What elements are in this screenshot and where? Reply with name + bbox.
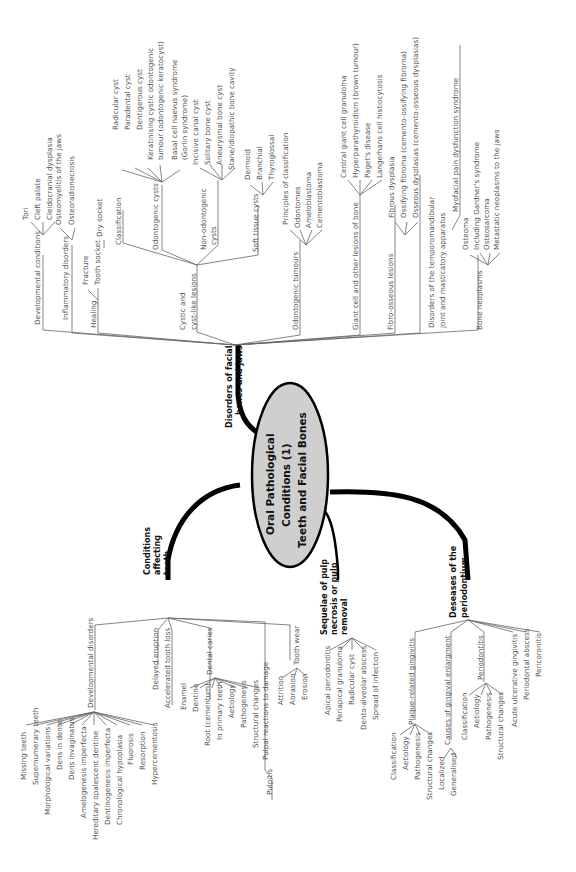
cystic-classification: Classification (114, 197, 123, 245)
branch-pulp-sequelae: Sequelae of pulp necrosis or pulp remova… (320, 559, 380, 730)
odontogenic-cysts: Odontogenic cysts (151, 183, 160, 250)
paradental-cyst: Paradental cyst (123, 74, 132, 130)
cystic-label-1: Cystic and (178, 292, 187, 330)
resorption: Resorption (138, 731, 147, 770)
pulpal-reactions: Pulpal reactions to damage (261, 661, 270, 760)
center-title-line1: Oral Pathological (264, 434, 276, 536)
odontomes: Odontomes (293, 186, 302, 228)
spread-of-infection: Spread of infection (371, 652, 380, 720)
dental-caries: Dental caries (205, 627, 214, 675)
keratinising-cystic-2: tumour (odontogenic keratocyst) (156, 41, 165, 160)
osteosarcoma: Osteosarcoma (482, 198, 491, 250)
hereditary-opalescent-dentine: Hereditary opalescent dentine (91, 730, 100, 840)
morphological-variations: Morphological variations (43, 727, 52, 815)
pulp-label-1: Sequelae of pulp (320, 559, 329, 635)
fibrous-dysplasia: Fibrous dysplasia (387, 156, 396, 218)
branch-teeth: Conditions affecting teeth Developmental… (19, 527, 309, 840)
metastatic-neoplasms: Metastatic neoplasms to the jaws (492, 129, 501, 250)
accelerated-tooth-loss: Accelerated tooth loss (163, 628, 172, 708)
caries-structural-changes: Structural changes (251, 680, 260, 748)
gardners-syndrome: Including Gardner's syndrome (472, 141, 481, 250)
non-odontogenic-2: cysts (209, 226, 218, 245)
dens-in-dente: Dens in dente (55, 719, 64, 770)
plaque-gingivitis: Plaque-related gingivitis (407, 638, 416, 725)
basal-cell-naevus-1: Basal cell naevus syndrome (170, 59, 179, 160)
perio-structural-changes: Structural changes (496, 692, 505, 760)
supernumerary-teeth: Supernumerary teeth (31, 708, 40, 785)
fracture: Fracture (81, 255, 90, 285)
caries-primary-teeth: In primary teeth (215, 682, 224, 740)
perio-classification: Classification (460, 692, 469, 740)
principles-classification: Principles of classification (281, 133, 290, 225)
plaque-pathogenesis: Pathogenesis (413, 732, 422, 780)
solitary-bone-cyst: Solitary bone cyst (203, 100, 212, 165)
plaque-aetiology: Aetiology (401, 736, 410, 770)
cystic-label-2: cyst-like lesions (189, 273, 198, 330)
dermoid: Dermoid (243, 149, 252, 180)
tmj-label-2: joint and masticatory apparatus (438, 212, 447, 329)
cleft-palate: Cleft palate (33, 178, 42, 220)
odontogenic-tumours: Odontogenic tumours (291, 252, 300, 330)
soft-tissue-cysts: Soft tissue cysts (251, 193, 260, 252)
giant-cell-lesions: Giant cell and other lesions of bone (351, 202, 360, 330)
generalised: Generalised (449, 753, 458, 796)
osteomyelitis: Osteomyelitis of the jaws (54, 134, 63, 225)
fluorosis: Fluorosis (126, 733, 135, 765)
delayed-eruption: Delayed eruption (151, 628, 160, 690)
pulpitis: Pulpitis (265, 769, 274, 795)
amelogenesis-imperfecta: Amelogenesis imperfecta (79, 726, 88, 818)
abrasion: Abrasion (288, 673, 297, 705)
center-title-line3: Teeth and Facial Bones (296, 412, 308, 548)
teeth-label-2: affecting (153, 535, 162, 575)
mind-map: Oral Pathological Conditions (1) Teeth a… (0, 0, 576, 872)
cementoblastoma: Cementoblastoma (315, 162, 324, 228)
tooth-socket: Tooth socket (93, 240, 102, 286)
chronological-hypoplasia: Chronological hypoplasia (115, 735, 124, 825)
dry-socket: Dry socket (95, 199, 104, 237)
radicular-cyst-pulp: Radicular cyst (347, 654, 356, 705)
facial-developmental: Developmental conditions (33, 231, 42, 325)
branch-periodontium: Deseases of the periodontium Plaque-rela… (389, 545, 543, 800)
missing-teeth: Missing teeth (19, 732, 28, 780)
erosion: Erosion (300, 674, 309, 700)
non-odontogenic-1: Non-odontogenic (199, 188, 208, 250)
perio-aetiology: Aetiology (472, 694, 481, 728)
ameloblastoma: Ameloblastoma (304, 172, 313, 228)
pagets-disease: Paget's disease (363, 122, 372, 178)
periapical-granuloma: Periapical granuloma (335, 646, 344, 722)
apical-periodontitis: Apical periodontitis (323, 645, 332, 715)
periodontitis: Periodontitis (476, 635, 485, 680)
fibro-osseous: Fibro-osseous lesions (386, 253, 395, 330)
plaque-structural-changes: Structural changes (425, 732, 434, 800)
facial-healing: Healing (89, 301, 98, 328)
tori: Tori (21, 207, 30, 221)
branch-facial-bones: Disorders of facial bones and jaws Devel… (21, 37, 501, 428)
caries-dentine: Dentine (191, 683, 200, 712)
center-node: Oral Pathological Conditions (1) Teeth a… (252, 383, 328, 567)
facial-inflammatory: Inflammatory disorders (61, 236, 70, 320)
ossifying-fibroma: Ossifying fibroma (cemento-ossifying fib… (399, 51, 408, 218)
acute-ulcerative-gingivitis: Acute ulcerative gingivitis (510, 633, 519, 727)
localized: Localized (437, 757, 446, 790)
osseous-dysplasias: Osseous dysplasias (cemento-osseous dysp… (411, 37, 420, 218)
osteoma: Osteoma (461, 218, 470, 250)
keratinising-cystic-1: Keratinising cystic odontogenic (146, 48, 155, 160)
facial-label-2: bones and jaws (235, 345, 244, 415)
myofacial-pain: Myofacial pain dysfunction syndrome (451, 77, 460, 212)
plaque-classification: Classification (389, 732, 398, 780)
osteoradionecrosis: Osteoradionecrosis (67, 156, 76, 225)
caries-enamel: Enamel (179, 683, 188, 710)
caries-root: Root (cementum) (203, 683, 212, 746)
incisive-canal-cyst: Incisive canal cyst (191, 99, 200, 165)
pulp-label-2: necrosis or pulp (330, 562, 339, 635)
teeth-label-3: teeth (163, 551, 172, 576)
hypercementosis: Hypercementosis (150, 722, 159, 785)
gingival-enlargement: Causes of gingival enlargment (443, 635, 452, 745)
caries-aetiology: Aetiology (227, 684, 236, 718)
aneurysmal-bone-cyst: Aneurysmal bone cyst (215, 85, 224, 165)
center-title-line2: Conditions (1) (280, 443, 292, 527)
central-giant-cell: Central giant cell granuloma (339, 75, 348, 178)
dentigerous-cyst: Dentigerous cyst (135, 69, 144, 130)
dento-alveolar-abscess: Dento-alveolar abscess (359, 646, 368, 730)
developmental-disorders: Developmental disorders (86, 617, 95, 708)
